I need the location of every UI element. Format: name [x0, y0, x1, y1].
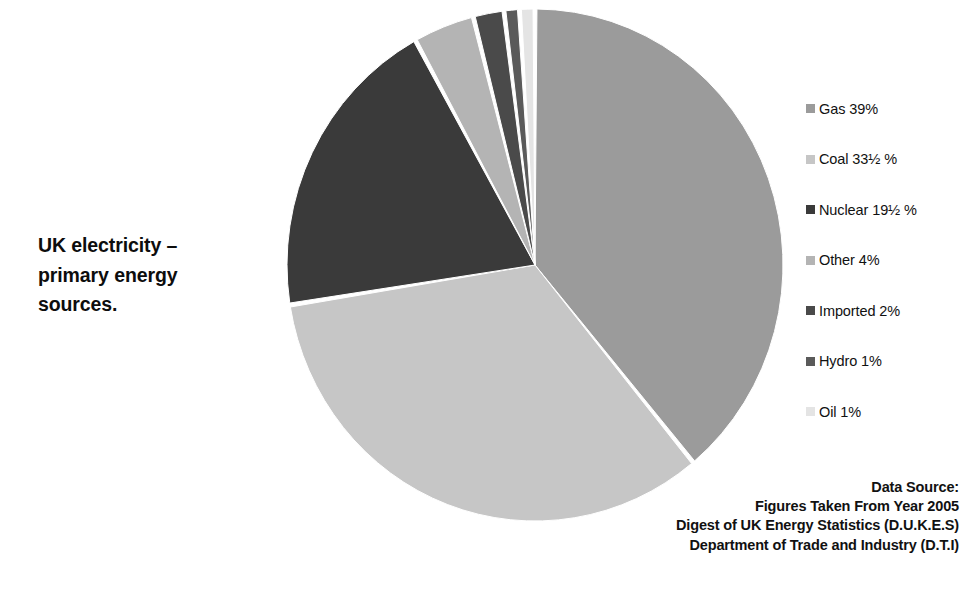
legend-swatch-icon [806, 205, 815, 214]
legend-item[interactable]: Oil 1% [806, 399, 971, 424]
chart-legend: Gas 39%Coal 33½ %Nuclear 19½ %Other 4%Im… [806, 96, 971, 450]
legend-item-label: Nuclear 19½ % [819, 202, 917, 218]
legend-item[interactable]: Other 4% [806, 248, 971, 273]
pie-chart-graphic [276, 0, 796, 536]
legend-item-label: Hydro 1% [819, 353, 882, 369]
legend-item[interactable]: Coal 33½ % [806, 147, 971, 172]
legend-swatch-icon [806, 104, 815, 113]
legend-item[interactable]: Hydro 1% [806, 349, 971, 374]
legend-swatch-icon [806, 357, 815, 366]
legend-item-label: Imported 2% [819, 303, 900, 319]
legend-item[interactable]: Imported 2% [806, 298, 971, 323]
legend-swatch-icon [806, 256, 815, 265]
page-title: UK electricity – primary energy sources. [38, 231, 263, 320]
pie-chart-figure: UK electricity – primary energy sources.… [0, 0, 971, 592]
legend-swatch-icon [806, 155, 815, 164]
pie-svg [276, 0, 796, 536]
legend-item-label: Gas 39% [819, 101, 878, 117]
data-source-note: Data Source: Figures Taken From Year 200… [676, 478, 959, 555]
pie-slice-group [287, 9, 783, 521]
legend-item[interactable]: Gas 39% [806, 96, 971, 121]
legend-swatch-icon [806, 407, 815, 416]
legend-item-label: Coal 33½ % [819, 151, 897, 167]
legend-item-label: Oil 1% [819, 404, 861, 420]
legend-swatch-icon [806, 306, 815, 315]
legend-item[interactable]: Nuclear 19½ % [806, 197, 971, 222]
legend-item-label: Other 4% [819, 252, 879, 268]
